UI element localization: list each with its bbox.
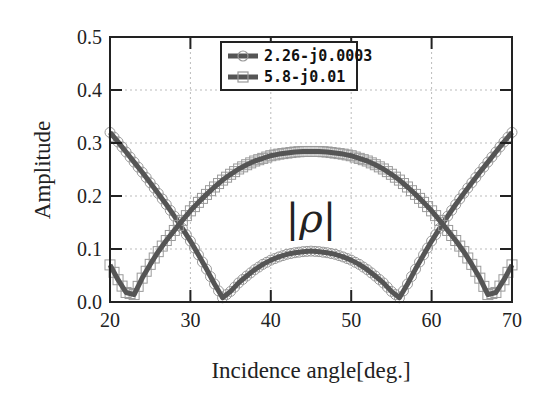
y-tick-label: 0.3: [77, 132, 102, 154]
x-axis-title: Incidence angle[deg.]: [211, 358, 410, 383]
y-tick-label: 0.1: [77, 238, 102, 260]
x-tick-label: 60: [422, 309, 442, 331]
y-tick-labels: 0.00.10.20.30.40.5: [77, 26, 102, 313]
legend-label-1: 2.26-j0.0003: [264, 47, 372, 65]
x-tick-label: 40: [261, 309, 281, 331]
y-tick-label: 0.0: [77, 291, 102, 313]
x-tick-label: 20: [100, 309, 120, 331]
legend-label-2: 5.8-j0.01: [264, 68, 345, 86]
amplitude-chart: 203040506070 0.00.10.20.30.40.5 Incidenc…: [0, 0, 544, 409]
x-tick-label: 70: [502, 309, 522, 331]
y-tick-label: 0.4: [77, 79, 102, 101]
x-tick-labels: 203040506070: [100, 309, 522, 331]
x-tick-label: 50: [341, 309, 361, 331]
y-axis-title: Amplitude: [30, 121, 55, 219]
y-tick-label: 0.2: [77, 185, 102, 207]
x-tick-label: 30: [180, 309, 200, 331]
rho-annotation: |ρ|: [286, 195, 336, 241]
y-tick-label: 0.5: [77, 26, 102, 48]
legend: 2.26-j0.0003 5.8-j0.01: [221, 42, 372, 90]
